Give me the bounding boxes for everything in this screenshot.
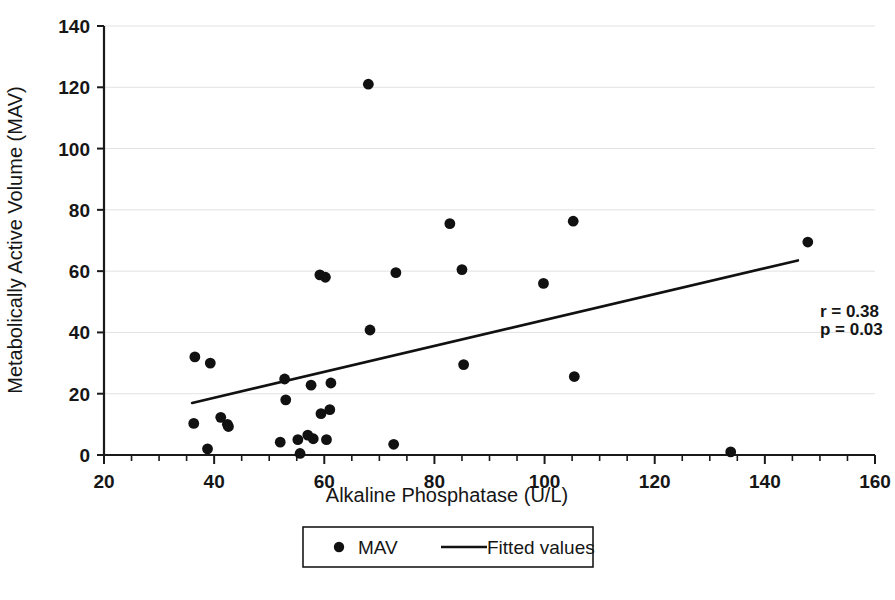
y-tick-label: 140 <box>58 16 90 37</box>
y-tick-label: 120 <box>58 77 90 98</box>
scatter-point <box>188 418 199 429</box>
scatter-point <box>388 439 399 450</box>
scatter-point <box>275 437 286 448</box>
x-tick-label: 160 <box>859 471 891 492</box>
chart-legend: MAV Fitted values <box>303 527 595 567</box>
scatter-point <box>569 371 580 382</box>
pvalue-p-annotation: p = 0.03 <box>820 320 883 339</box>
scatter-point <box>458 359 469 370</box>
y-tick-label: 0 <box>79 445 90 466</box>
chart-canvas: 20406080100120140160 020406080100120140 … <box>0 0 895 600</box>
legend-label-mav: MAV <box>358 537 398 558</box>
scatter-point <box>363 79 374 90</box>
scatter-point <box>295 448 306 459</box>
y-axis-tick-labels: 020406080100120140 <box>58 16 90 466</box>
y-tick-label: 100 <box>58 139 90 160</box>
scatter-point <box>457 264 468 275</box>
scatter-point <box>280 394 291 405</box>
scatter-point <box>568 216 579 227</box>
scatter-plot-figure: 20406080100120140160 020406080100120140 … <box>0 0 895 600</box>
scatter-point <box>390 267 401 278</box>
scatter-point <box>292 434 303 445</box>
scatter-point <box>725 447 736 458</box>
scatter-point <box>444 218 455 229</box>
scatter-point <box>538 278 549 289</box>
legend-label-fitted-values: Fitted values <box>487 537 595 558</box>
scatter-point <box>189 352 200 363</box>
scatter-point <box>320 272 331 283</box>
scatter-point <box>802 237 813 248</box>
scatter-point <box>325 378 336 389</box>
x-tick-label: 120 <box>639 471 671 492</box>
y-tick-label: 80 <box>69 200 90 221</box>
scatter-point <box>205 358 216 369</box>
scatter-point <box>306 380 317 391</box>
mav-scatter-points <box>188 79 813 459</box>
x-axis-title: Alkaline Phosphatase (U/L) <box>326 484 568 506</box>
scatter-point <box>365 325 376 336</box>
y-tick-label: 40 <box>69 322 90 343</box>
scatter-point <box>223 421 234 432</box>
correlation-r-annotation: r = 0.38 <box>820 302 879 321</box>
scatter-point <box>324 404 335 415</box>
x-tick-label: 140 <box>749 471 781 492</box>
y-tick-label: 20 <box>69 384 90 405</box>
y-axis-title: Metabolically Active Volume (MAV) <box>4 86 26 394</box>
gridlines <box>104 26 875 455</box>
x-tick-label: 40 <box>204 471 225 492</box>
legend-marker-mav-icon <box>334 542 344 552</box>
scatter-point <box>279 374 290 385</box>
plot-axes <box>104 26 875 455</box>
scatter-point <box>308 433 319 444</box>
x-tick-label: 20 <box>93 471 114 492</box>
y-tick-label: 60 <box>69 261 90 282</box>
scatter-point <box>321 434 332 445</box>
scatter-point <box>202 443 213 454</box>
